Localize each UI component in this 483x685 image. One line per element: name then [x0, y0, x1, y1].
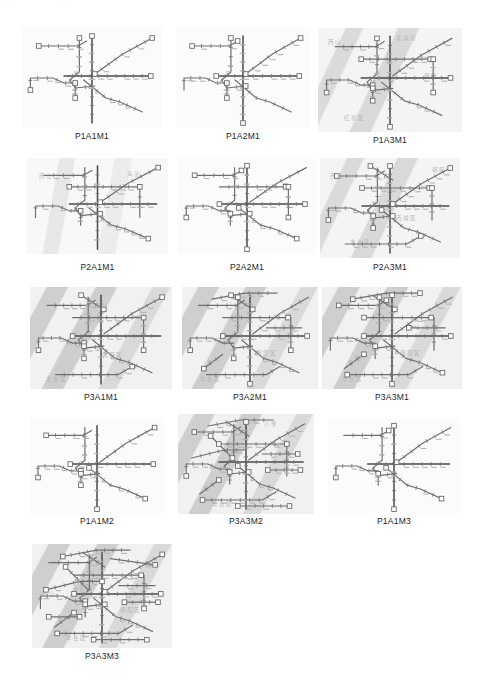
panel-caption-p3a1m1: P3A1M1 [30, 392, 172, 402]
metro-terminal-station [37, 44, 42, 49]
metro-terminal-station [287, 504, 292, 509]
metro-network-graphic [32, 544, 172, 648]
metro-terminal-station [394, 460, 399, 465]
metro-map-p1a3m1[interactable]: 西山北清河红星区朝阳 [318, 28, 462, 132]
metro-terminal-station [151, 462, 156, 467]
metro-map-p3a3m2[interactable]: 八季丰台区 [178, 414, 314, 514]
metro-terminal-station [61, 554, 66, 559]
metro-terminal-station [221, 334, 226, 339]
metro-station-tick [259, 482, 260, 486]
metro-terminal-station [370, 86, 375, 91]
metro-map-p1a1m2[interactable] [30, 418, 164, 514]
metro-terminal-station [228, 211, 233, 216]
metro-terminal-station [103, 590, 108, 595]
metro-line [328, 208, 373, 220]
metro-map-p3a1m1[interactable]: 朝阳区丰台区 [30, 287, 172, 389]
metro-terminal-station [241, 121, 246, 126]
metro-terminal-station [192, 430, 197, 435]
metro-terminal-station [392, 423, 397, 428]
metro-line [95, 38, 152, 74]
metro-station-tick [243, 345, 244, 349]
metro-station-tick [119, 100, 120, 104]
metro-map-p3a3m3[interactable]: 西山海淀区朝阳区丰台区 [32, 544, 172, 648]
metro-terminal-station [143, 496, 148, 501]
metro-terminal-station [36, 348, 41, 353]
panel-caption-p2a1m1: P2A1M1 [27, 262, 168, 272]
metro-terminal-station [95, 507, 100, 512]
metro-map-p1a1m1[interactable] [22, 28, 162, 128]
metro-terminal-station [375, 36, 380, 41]
panel-caption-p3a3m2: P3A3M2 [178, 516, 314, 526]
metro-terminal-station [388, 125, 393, 130]
metro-terminal-station [379, 208, 384, 213]
metro-terminal-station [295, 452, 300, 457]
metro-terminal-station [202, 366, 207, 371]
metro-station-tick [256, 96, 257, 100]
metro-terminal-station [72, 610, 77, 615]
metro-line [30, 78, 75, 90]
metro-terminal-station [239, 168, 244, 173]
metro-station-tick [137, 560, 138, 564]
metro-station-tick [128, 559, 129, 563]
metro-station-tick [209, 452, 210, 456]
metro-network-graphic [322, 287, 462, 389]
metro-map-p3a3m1[interactable]: 朝阳区丰台区 [322, 287, 462, 389]
metro-station-tick [272, 359, 273, 363]
metro-network-graphic [318, 28, 462, 132]
metro-terminal-station [377, 295, 382, 300]
metro-map-p1a1m3[interactable] [328, 418, 460, 514]
metro-line [336, 466, 378, 478]
metro-terminal-station [82, 356, 87, 361]
metro-terminal-station [192, 173, 197, 178]
metro-terminal-station [448, 76, 453, 81]
metro-terminal-station [360, 186, 365, 191]
metro-terminal-station [303, 202, 308, 207]
metro-map-p2a1m1[interactable]: 西山海淀 [27, 158, 168, 254]
metro-terminal-station [362, 352, 367, 357]
metro-station-tick [369, 294, 370, 298]
metro-terminal-station [47, 615, 52, 620]
metro-terminal-station [122, 600, 127, 605]
metro-terminal-station [68, 462, 73, 467]
metro-map-p1a2m1[interactable] [176, 28, 310, 128]
metro-terminal-station [28, 88, 33, 93]
metro-terminal-station [130, 364, 135, 369]
panel-caption-p1a3m1: P1A3M1 [318, 135, 462, 145]
metro-terminal-station [79, 471, 84, 476]
metro-terminal-station [245, 163, 250, 168]
metro-station-tick [119, 486, 120, 490]
metro-terminal-station [298, 468, 303, 473]
panel-caption-p3a3m3: P3A3M3 [32, 651, 172, 661]
metro-station-tick [268, 485, 269, 489]
metro-terminal-station [138, 185, 143, 190]
panel-caption-p1a2m1: P1A2M1 [176, 131, 310, 141]
metro-station-tick [218, 450, 219, 454]
metro-terminal-station [384, 466, 389, 471]
metro-network-graphic [182, 287, 318, 389]
metro-line [347, 367, 423, 375]
metro-terminal-station [91, 637, 96, 642]
metro-network-graphic [176, 28, 310, 128]
metro-terminal-station [351, 297, 356, 302]
metro-terminal-station [153, 563, 158, 568]
metro-terminal-station [230, 456, 235, 461]
metro-terminal-station [227, 470, 232, 475]
metro-terminal-station [98, 200, 103, 205]
metro-station-tick [96, 548, 97, 552]
metro-terminal-station [337, 303, 342, 308]
metro-map-p2a2m1[interactable] [178, 158, 316, 254]
metro-map-p2a3m1[interactable]: 西山朝阳西城区丰台区 [320, 158, 460, 258]
metro-terminal-station [236, 206, 241, 211]
metro-station-tick [235, 419, 236, 423]
metro-terminal-station [390, 293, 395, 298]
metro-terminal-station [246, 470, 251, 475]
metro-station-tick [120, 616, 121, 620]
metro-terminal-station [391, 214, 396, 219]
metro-terminal-station [141, 315, 146, 320]
metro-station-tick [128, 360, 129, 364]
metro-station-tick [110, 483, 111, 487]
panel-caption-p3a2m1: P3A2M1 [182, 392, 318, 402]
metro-terminal-station [418, 291, 423, 296]
metro-terminal-station [77, 615, 82, 620]
metro-map-p3a2m1[interactable]: 朝阳区丰台区 [182, 287, 318, 389]
